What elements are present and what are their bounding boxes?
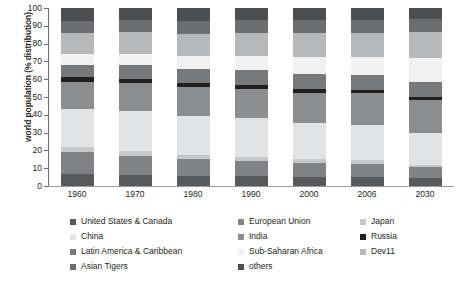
legend-swatch-icon xyxy=(360,234,366,240)
bar-segment xyxy=(235,89,268,118)
y-tick-label: 90 xyxy=(16,21,42,30)
bar-segment xyxy=(235,33,268,56)
legend-item[interactable]: Dev11 xyxy=(360,244,397,259)
bar-segment xyxy=(351,125,384,161)
chart-root: world population (% distribution) 100908… xyxy=(0,0,460,283)
legend-item[interactable]: Japan xyxy=(360,214,397,229)
x-tick-label: 2030 xyxy=(395,190,455,199)
legend-label: Asian Tigers xyxy=(81,262,128,271)
bar-segment xyxy=(177,69,210,83)
legend-item[interactable]: Latin America & Caribbean xyxy=(70,244,182,259)
bar-group xyxy=(48,8,454,186)
legend-item[interactable]: Russia xyxy=(360,229,397,244)
bar-segment xyxy=(235,56,268,70)
legend-swatch-icon xyxy=(70,234,76,240)
legend-swatch-icon xyxy=(70,264,76,270)
legend-label: Dev11 xyxy=(371,247,395,256)
bar-segment xyxy=(177,21,210,34)
bar-segment xyxy=(351,164,384,177)
bar-segment xyxy=(409,133,442,165)
legend-item[interactable]: Asian Tigers xyxy=(70,259,182,274)
plot-area: world population (% distribution) 100908… xyxy=(0,0,460,205)
bar-segment xyxy=(61,21,94,33)
legend-column: JapanRussiaDev11 xyxy=(360,214,397,259)
bar-segment xyxy=(61,33,94,54)
x-tick-label: 2006 xyxy=(337,190,397,199)
bar-segment xyxy=(177,56,210,68)
y-tick-label: 0 xyxy=(16,182,42,191)
legend-label: Russia xyxy=(371,232,397,241)
bar-segment xyxy=(293,123,326,159)
x-tick-label: 1970 xyxy=(105,190,165,199)
x-tick-label: 1960 xyxy=(47,190,107,199)
bar-segment xyxy=(293,20,326,33)
x-tick-label: 1990 xyxy=(221,190,281,199)
bar-segment xyxy=(119,83,152,111)
bar-segment xyxy=(235,176,268,186)
stacked-bar xyxy=(61,8,94,186)
bar-segment xyxy=(351,8,384,20)
stacked-bar xyxy=(235,8,268,186)
bar-segment xyxy=(351,20,384,33)
bar-segment xyxy=(351,57,384,75)
bar-segment xyxy=(409,82,442,97)
legend-swatch-icon xyxy=(360,249,366,255)
y-tick-label: 30 xyxy=(16,128,42,137)
bar-segment xyxy=(351,177,384,186)
bar-segment xyxy=(61,8,94,20)
bar-segment xyxy=(61,82,94,109)
legend-label: Sub-Saharan Africa xyxy=(249,247,323,256)
y-tick-label: 70 xyxy=(16,57,42,66)
legend-item[interactable]: European Union xyxy=(238,214,323,229)
legend-item[interactable]: China xyxy=(70,229,182,244)
bar-segment xyxy=(235,118,268,156)
y-tick-label: 40 xyxy=(16,110,42,119)
bar-segment xyxy=(61,65,94,77)
stacked-bar xyxy=(351,8,384,186)
bar-segment xyxy=(235,161,268,176)
bar-segment xyxy=(409,58,442,82)
bar-segment xyxy=(409,19,442,32)
bar-segment xyxy=(293,177,326,186)
bar-segment xyxy=(119,111,152,151)
legend-item[interactable]: India xyxy=(238,229,323,244)
bar-segment xyxy=(177,159,210,176)
legend-swatch-icon xyxy=(238,249,244,255)
bar-segment xyxy=(409,32,442,58)
bar-segment xyxy=(293,74,326,89)
y-tick-label: 80 xyxy=(16,39,42,48)
legend-swatch-icon xyxy=(238,234,244,240)
bar-segment xyxy=(119,20,152,33)
legend-item[interactable]: United States & Canada xyxy=(70,214,182,229)
legend-column: European UnionIndiaSub-Saharan Africaoth… xyxy=(238,214,323,274)
legend-item[interactable]: others xyxy=(238,259,323,274)
x-axis-line xyxy=(48,186,454,187)
y-tick-label: 100 xyxy=(16,4,42,13)
chart-legend: United States & CanadaChinaLatin America… xyxy=(70,214,460,278)
bar-segment xyxy=(235,70,268,84)
legend-swatch-icon xyxy=(238,264,244,270)
bar-segment xyxy=(351,75,384,90)
legend-label: others xyxy=(249,262,273,271)
y-tick-label: 20 xyxy=(16,146,42,155)
bar-segment xyxy=(177,176,210,186)
legend-label: Latin America & Caribbean xyxy=(81,247,182,256)
bar-segment xyxy=(293,33,326,57)
bar-segment xyxy=(61,54,94,65)
bar-segment xyxy=(177,34,210,56)
bar-segment xyxy=(119,54,152,66)
legend-label: China xyxy=(81,232,103,241)
legend-item[interactable]: Sub-Saharan Africa xyxy=(238,244,323,259)
bar-segment xyxy=(409,167,442,178)
legend-swatch-icon xyxy=(360,219,366,225)
y-tick-label: 50 xyxy=(16,93,42,102)
bar-segment xyxy=(177,116,210,155)
bar-segment xyxy=(293,93,326,123)
bar-segment xyxy=(119,65,152,78)
bar-segment xyxy=(293,8,326,20)
legend-label: European Union xyxy=(249,217,310,226)
bar-segment xyxy=(119,156,152,176)
bar-segment xyxy=(61,109,94,147)
legend-label: India xyxy=(249,232,267,241)
bar-segment xyxy=(351,33,384,57)
